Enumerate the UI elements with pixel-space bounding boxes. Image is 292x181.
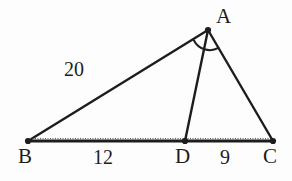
vertex-label-d: D — [175, 146, 190, 167]
geometry-figure: A B D C 20 12 9 — [0, 0, 292, 181]
geometry-canvas — [0, 0, 292, 181]
vertex-label-a: A — [216, 6, 231, 27]
vertex-label-c: C — [263, 146, 277, 167]
length-label-bd: 12 — [93, 147, 113, 167]
length-label-ba: 20 — [64, 59, 84, 79]
vertex-dot-A — [205, 27, 211, 33]
segment-AD — [185, 30, 208, 141]
segment-BA — [28, 30, 208, 141]
length-label-dc: 9 — [220, 147, 230, 167]
segment-AC — [208, 30, 273, 141]
vertex-label-b: B — [18, 146, 32, 167]
